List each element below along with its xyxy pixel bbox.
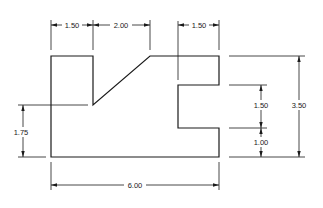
technical-drawing: 1.50 2.00 1.50 1.50 1.00 [0,0,323,208]
dim-slot-height: 1.50 [252,85,270,128]
dim-label-left-height: 1.75 [14,128,29,137]
dim-label-top-left: 1.50 [65,21,80,30]
dim-label-overall-width: 6.00 [128,181,143,190]
dim-slot-bottom: 1.00 [252,128,270,157]
dim-top-left: 1.50 [51,20,93,50]
dim-label-top-right: 1.50 [192,21,207,30]
dim-top-right: 1.50 [178,20,219,50]
dim-label-top-slope: 2.00 [114,21,129,30]
dim-label-slot-bottom: 1.00 [254,138,269,147]
dim-overall-width: 6.00 [51,162,219,190]
dim-left-height: 1.75 [12,105,88,157]
part-outline [51,56,219,157]
dim-label-overall-height: 3.50 [292,101,307,110]
dim-top-slope: 2.00 [93,20,150,50]
dim-label-slot-height: 1.50 [254,101,269,110]
dim-overall-height: 3.50 [290,56,308,157]
